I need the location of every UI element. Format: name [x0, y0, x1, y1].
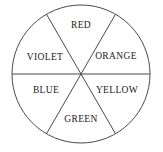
- sector-label-violet: VIOLET: [27, 53, 63, 63]
- sector-label-blue: BLUE: [33, 86, 59, 96]
- sector-label-red: RED: [71, 21, 91, 31]
- sector-label-orange: ORANGE: [95, 52, 137, 62]
- color-wheel-diagram: RED ORANGE YELLOW GREEN BLUE VIOLET: [0, 0, 163, 152]
- sector-label-green: GREEN: [64, 115, 97, 125]
- sector-label-yellow: YELLOW: [96, 86, 138, 96]
